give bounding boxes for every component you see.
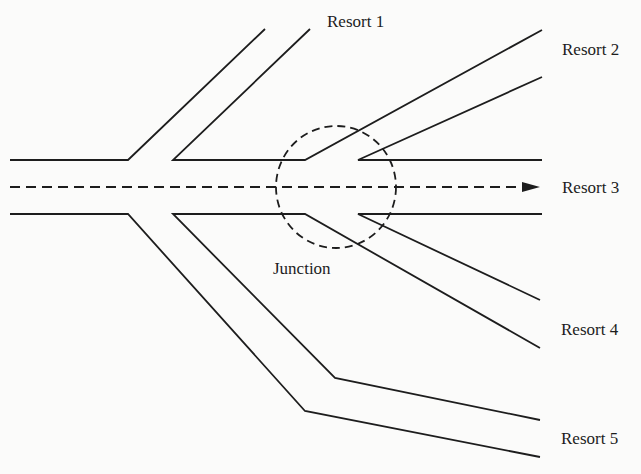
arrow-head-icon bbox=[522, 182, 540, 192]
road-diagram bbox=[0, 0, 641, 474]
road-edge-resort1-resort2 bbox=[173, 29, 542, 160]
road-edge-resort4-resort5 bbox=[173, 214, 540, 420]
label-resort-4: Resort 4 bbox=[561, 320, 618, 340]
label-resort-5: Resort 5 bbox=[561, 429, 618, 449]
label-resort-2: Resort 2 bbox=[562, 40, 619, 60]
road-edge-resort3-resort4-lower bbox=[358, 214, 542, 300]
road-edge-lower-left bbox=[10, 214, 540, 457]
road-edge-upper-left bbox=[10, 29, 265, 160]
label-resort-3: Resort 3 bbox=[562, 178, 619, 198]
label-resort-1: Resort 1 bbox=[327, 12, 384, 32]
road-edge-resort2-resort3-upper bbox=[358, 77, 542, 160]
label-junction: Junction bbox=[273, 259, 331, 279]
